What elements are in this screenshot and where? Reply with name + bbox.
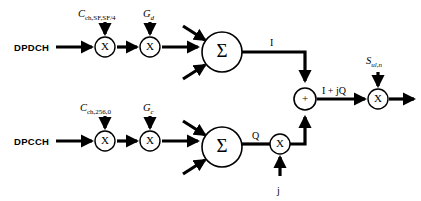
uplink-spreading-scrambling-diagram: X X Σ X X Σ X — [0, 0, 421, 201]
gain-c-label: Gc — [143, 102, 155, 116]
channelization-code-q-subscript: ch,256,0 — [87, 108, 112, 116]
input-label-dpcch: DPCCH — [14, 136, 49, 147]
wire-i-to-adder — [242, 52, 305, 81]
channelization-code-i-label: Cch,SF,SF/4 — [78, 8, 116, 22]
multiplier-dpcch-channelization-glyph: X — [101, 134, 109, 146]
scrambling-code-label: Sul,n — [366, 55, 382, 69]
gain-c-subscript: c — [151, 108, 155, 116]
multiplier-dpcch-gain-glyph: X — [146, 134, 154, 146]
scrambling-code-subscript: ul,n — [371, 61, 382, 69]
complex-adder-glyph: + — [302, 92, 308, 104]
multiplier-q-by-j-glyph: X — [276, 137, 284, 149]
diagram-canvas: X X Σ X X Σ X — [0, 0, 421, 201]
channelization-code-q-label: Cch,256,0 — [80, 102, 112, 116]
signal-label-complex: I + jQ — [322, 85, 347, 96]
signal-label-j: j — [276, 185, 280, 196]
wire-extra-dpcch-lower — [183, 160, 205, 174]
wire-extra-dpcch-upper — [183, 121, 205, 135]
wire-extra-dpdch-upper — [183, 26, 205, 40]
channelization-code-i-subscript: ch,SF,SF/4 — [85, 14, 116, 22]
multiplier-scrambling-glyph: X — [374, 92, 382, 104]
multiplier-dpdch-channelization-glyph: X — [101, 40, 109, 52]
q-branch-group: X X Σ — [56, 116, 242, 174]
wire-jq-to-adder — [290, 117, 305, 144]
wire-extra-dpdch-lower — [183, 65, 205, 79]
multiplier-dpdch-gain-glyph: X — [146, 40, 154, 52]
gain-d-subscript: d — [151, 14, 155, 22]
signal-label-q: Q — [252, 130, 260, 141]
summation-i-branch-glyph: Σ — [216, 40, 227, 61]
gain-d-label: Gd — [143, 8, 155, 22]
summation-q-branch-glyph: Σ — [216, 135, 227, 156]
input-label-dpdch: DPDCH — [14, 42, 49, 53]
signal-label-i: I — [270, 37, 273, 48]
i-branch-group: X X Σ — [56, 22, 242, 79]
